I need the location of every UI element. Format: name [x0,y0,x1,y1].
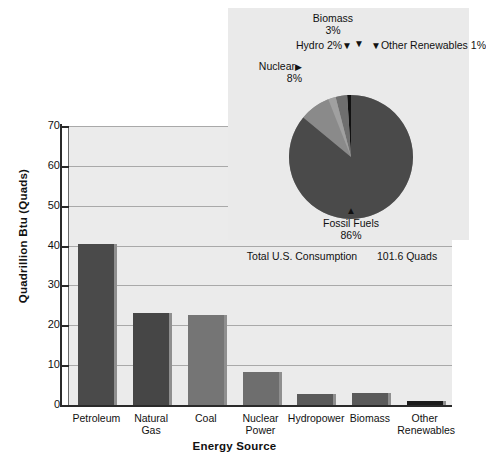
x-axis-tick-label: NuclearPower [233,412,288,436]
x-label-line1: Coal [195,412,217,424]
y-axis-tick [60,405,69,407]
y-axis-tick-label: 10 [20,359,60,370]
pie-chart: Biomass 3% Hydro 2%▼ ▼ ▼Other Renewables… [228,8,469,240]
y-axis-tick [60,206,69,208]
y-axis-tick-label: 50 [20,200,60,211]
x-label-line2: Power [246,424,276,436]
y-axis-tick-label: 40 [20,240,60,251]
bar[interactable] [352,393,388,405]
pie-label-biomass: Biomass 3% [273,12,393,36]
x-label-line1: Hydropower [288,412,345,424]
x-label-line1: Biomass [350,412,390,424]
bar[interactable] [78,244,114,405]
pie-label-hydro: Hydro 2%▼ [242,39,352,51]
y-axis-tick [60,285,69,287]
bar[interactable] [188,315,224,405]
bar[interactable] [133,313,169,405]
y-axis-tick-label: 0 [20,399,60,410]
x-axis-tick-label: Coal [178,412,233,424]
x-axis-tick-label: OtherRenewables [397,412,452,436]
y-axis-tick [60,246,69,248]
x-axis-tick-label: Biomass [343,412,398,424]
y-axis-tick [60,166,69,168]
x-label-line1: Other [412,412,438,424]
pie-label-other-renewables: ▼Other Renewables 1% [371,39,486,51]
y-axis-tick-label: 60 [20,160,60,171]
x-axis-title: Energy Source [0,440,469,452]
pie-label-nuclear: Nuclear▶ 8% [228,60,302,84]
pie-label-fossil: Fossil Fuels 86% [290,217,412,241]
y-axis-tick-label: 30 [20,279,60,290]
y-axis-tick [60,126,69,128]
x-label-line1: Nuclear [242,412,278,424]
y-axis-tick-label: 70 [20,120,60,131]
pie-chart-inset: Biomass 3% Hydro 2%▼ ▼ ▼Other Renewables… [228,8,469,240]
pie-label-hydro-text: Hydro 2% [296,39,342,51]
y-axis-tick-label: 20 [20,319,60,330]
pie-label-fossil-name: Fossil Fuels [323,217,379,229]
pie-marker-fossil-up-icon: ▲ [346,206,356,216]
y-axis-tick [60,325,69,327]
x-axis-tick-label: Natural Gas [124,412,179,436]
x-axis-tick-label: Petroleum [69,412,124,424]
pie-label-other-text: Other Renewables 1% [381,39,486,51]
pie-marker-other-down-icon: ▼ [371,40,381,51]
pie-label-fossil-value: 86% [340,229,361,241]
bar[interactable] [297,394,333,405]
pie-marker-nuclear-right-icon: ▶ [295,62,302,72]
pie-label-biomass-value: 3% [325,24,340,36]
y-axis-tick [60,365,69,367]
bar[interactable] [243,372,279,405]
y-axis-tick-labels: 706050403020100 [6,0,56,463]
x-label-line1: Petroleum [72,412,120,424]
x-label-line2: Renewables [397,424,455,436]
pie-label-biomass-name: Biomass [313,12,353,24]
pie-label-nuclear-name: Nuclear [259,60,295,72]
pie-label-nuclear-value: 8% [287,72,302,84]
pie-marker-hydro-down-icon: ▼ [342,40,352,51]
total-consumption-label: Total U.S. Consumption [247,250,357,262]
total-consumption-value: 101.6 Quads [377,250,437,262]
x-axis-line [60,405,452,407]
x-axis-tick-label: Hydropower [288,412,343,424]
total-consumption-note: Total U.S. Consumption 101.6 Quads [228,250,456,262]
pie-marker-biomass-down-icon: ▼ [354,39,364,49]
x-label-line1: Natural Gas [134,412,168,436]
